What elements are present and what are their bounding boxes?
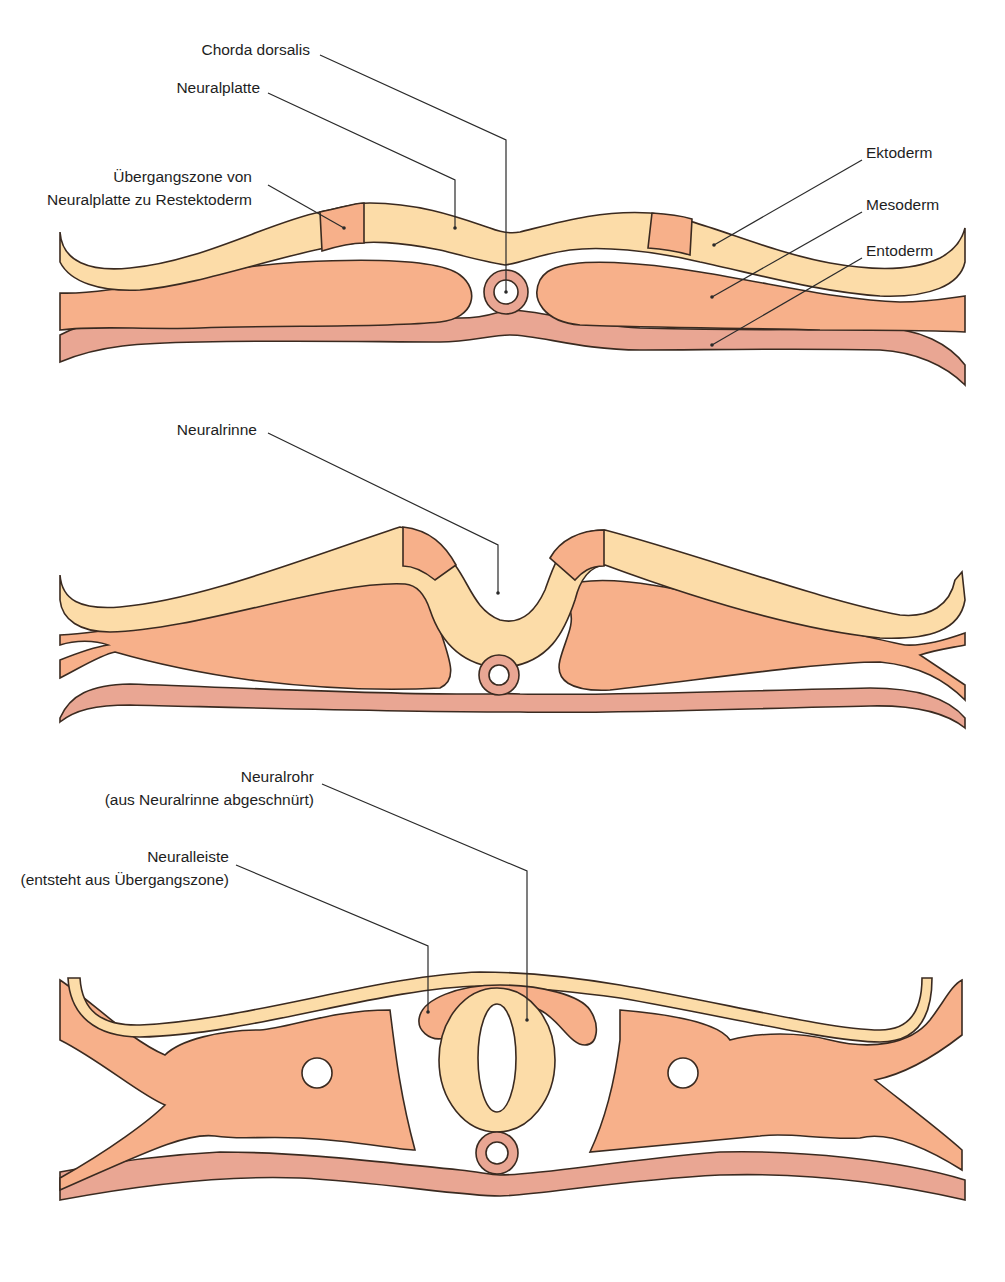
label-chorda-dorsalis: Chorda dorsalis	[201, 41, 310, 58]
label-neuralrohr-1: Neuralrohr	[241, 768, 314, 785]
label-uebergangszone-1: Übergangszone von	[113, 168, 252, 185]
label-neuralleiste-1: Neuralleiste	[147, 848, 229, 865]
panel-neural-groove: Neuralrinne	[60, 421, 965, 728]
label-mesoderm: Mesoderm	[866, 196, 939, 213]
somite-cavity-right	[668, 1058, 698, 1088]
label-ektoderm: Ektoderm	[866, 144, 932, 161]
chorda-dorsalis-lumen	[486, 1142, 508, 1164]
label-neuralrohr-2: (aus Neuralrinne abgeschnürt)	[105, 791, 314, 808]
leader-ektoderm	[714, 160, 862, 245]
panel-neural-plate: Chorda dorsalis Neuralplatte Übergangszo…	[47, 41, 965, 385]
label-neuralrinne: Neuralrinne	[177, 421, 257, 438]
panel-neural-tube: Neuralrohr (aus Neuralrinne abgeschnürt)…	[20, 768, 965, 1200]
label-uebergangszone-2: Neuralplatte zu Restektoderm	[47, 191, 252, 208]
label-entoderm: Entoderm	[866, 242, 933, 259]
label-neuralplatte: Neuralplatte	[176, 79, 260, 96]
chorda-dorsalis-lumen	[489, 665, 509, 685]
somite-cavity-left	[302, 1058, 332, 1088]
label-neuralleiste-2: (entsteht aus Übergangszone)	[20, 871, 229, 888]
neural-tube-lumen	[478, 1004, 516, 1112]
mesoderm-right	[590, 980, 962, 1170]
neurulation-diagram: Chorda dorsalis Neuralplatte Übergangszo…	[0, 0, 1005, 1282]
transition-zone-right	[648, 213, 692, 255]
